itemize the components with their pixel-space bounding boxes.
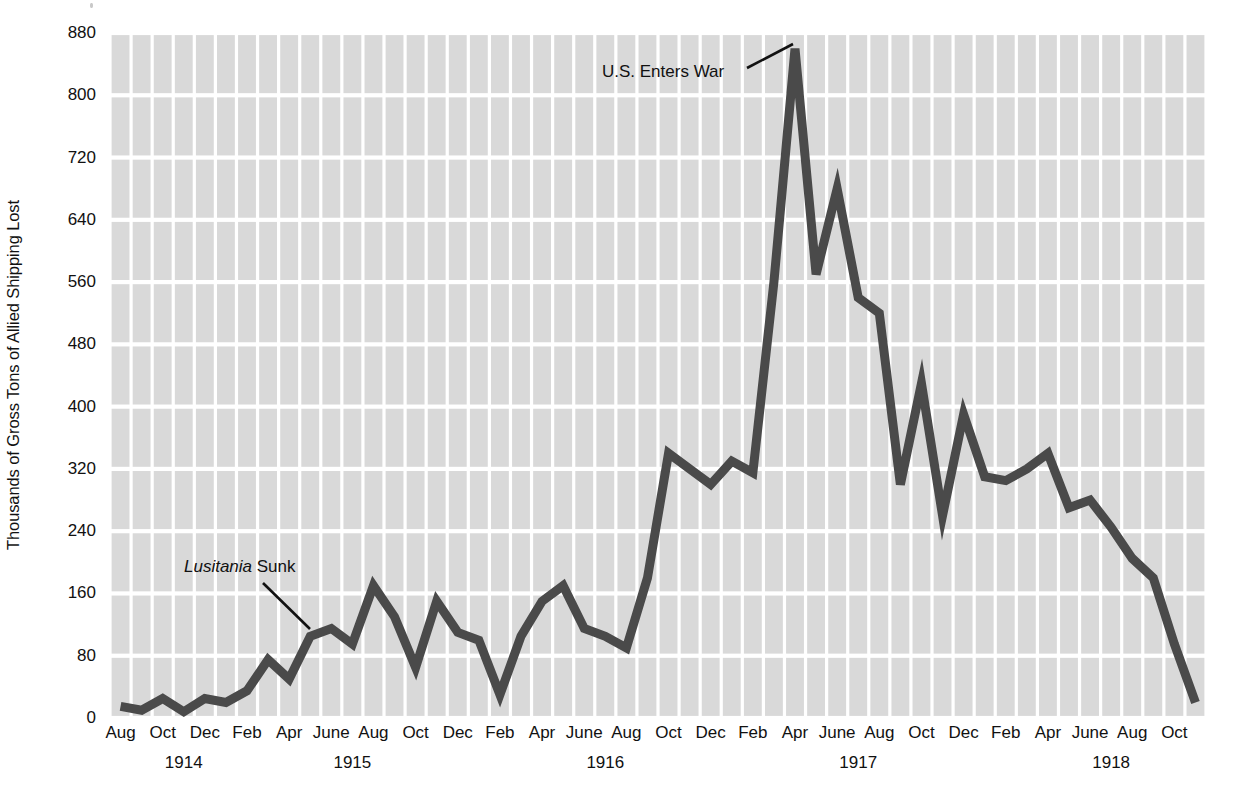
y-axis-ticks: 080160240320400480560640720800880 (0, 0, 104, 806)
x-year-label: 1916 (560, 752, 650, 774)
annotation-text: Sunk (252, 557, 295, 576)
y-tick-label: 80 (6, 647, 96, 664)
y-tick-label: 400 (6, 398, 96, 415)
annotation-us-enters-war: U.S. Enters War (602, 62, 724, 82)
y-tick-label: 0 (6, 709, 96, 726)
x-axis-ticks: AugOctDecFebAprJuneAugOctDecFebAprJuneAu… (110, 722, 1206, 748)
y-tick-label: 640 (6, 211, 96, 228)
y-tick-label: 160 (6, 584, 96, 601)
y-tick-label: 320 (6, 460, 96, 477)
y-tick-label: 240 (6, 522, 96, 539)
shipping-losses-line-chart: Thousands of Gross Tons of Allied Shippi… (0, 0, 1244, 806)
annotation-leader-lines (110, 33, 1206, 718)
y-tick-label: 480 (6, 335, 96, 352)
y-tick-label: 560 (6, 273, 96, 290)
x-year-label: 1917 (813, 752, 903, 774)
y-tick-label: 880 (6, 24, 96, 41)
annotation-emphasis: Lusitania (184, 557, 252, 576)
plot-area (110, 33, 1206, 718)
x-tick-label: Oct (1139, 722, 1209, 744)
x-year-label: 1918 (1066, 752, 1156, 774)
annotation-text: U.S. Enters War (602, 62, 724, 81)
annotation-lusitania-sunk: Lusitania Sunk (184, 557, 296, 577)
x-year-label: 1914 (139, 752, 229, 774)
y-tick-label: 720 (6, 149, 96, 166)
y-tick-label: 800 (6, 86, 96, 103)
x-year-label: 1915 (307, 752, 397, 774)
x-axis-year-labels: 19141915191619171918 (110, 752, 1206, 778)
